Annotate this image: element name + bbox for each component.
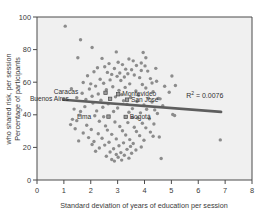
y-tick-label: 100 bbox=[19, 13, 31, 22]
scatter-point bbox=[127, 156, 130, 159]
x-tick-label: 7 bbox=[223, 186, 227, 195]
city-marker bbox=[116, 93, 119, 96]
scatter-point bbox=[121, 129, 124, 132]
city-label: Bogotá bbox=[130, 113, 151, 121]
scatter-point bbox=[133, 125, 136, 128]
x-tick-label: 2 bbox=[89, 186, 93, 195]
scatter-point bbox=[94, 150, 97, 153]
scatter-point bbox=[90, 128, 93, 131]
city-marker bbox=[124, 115, 127, 118]
scatter-point bbox=[82, 81, 85, 84]
scatter-chart-figure: 020406080100 012345678 CaracasBuenos Air… bbox=[0, 0, 266, 215]
scatter-point bbox=[140, 61, 143, 64]
y-axis-title-line-1: who shared risk, per session bbox=[4, 53, 13, 145]
scatter-point bbox=[138, 134, 141, 137]
scatter-point bbox=[100, 137, 103, 140]
scatter-point bbox=[144, 126, 147, 129]
scatter-point bbox=[96, 66, 99, 69]
city-marker bbox=[108, 97, 111, 100]
scatter-point bbox=[144, 56, 147, 59]
scatter-point bbox=[141, 83, 144, 86]
scatter-point bbox=[132, 59, 135, 62]
scatter-point bbox=[123, 75, 126, 78]
scatter-point bbox=[108, 150, 111, 153]
scatter-point bbox=[104, 124, 107, 127]
scatter-point bbox=[135, 130, 138, 133]
scatter-point bbox=[112, 110, 115, 113]
x-tick-label: 6 bbox=[196, 186, 200, 195]
x-tick-label: 4 bbox=[142, 186, 146, 195]
scatter-point bbox=[90, 46, 93, 49]
scatter-point bbox=[92, 140, 95, 143]
scatter-point bbox=[122, 141, 125, 144]
scatter-point bbox=[151, 135, 154, 138]
scatter-point bbox=[168, 91, 171, 94]
scatter-point bbox=[131, 107, 134, 110]
scatter-point bbox=[130, 152, 133, 155]
scatter-point bbox=[111, 85, 114, 88]
scatter-point bbox=[107, 62, 110, 65]
scatter-point bbox=[115, 50, 118, 53]
y-tick-label: 80 bbox=[23, 45, 31, 54]
scatter-point bbox=[159, 157, 162, 160]
scatter-point bbox=[112, 147, 115, 150]
scatter-point bbox=[121, 63, 124, 66]
scatter-point bbox=[105, 155, 108, 158]
scatter-point bbox=[98, 78, 101, 81]
scatter-point bbox=[149, 130, 152, 133]
scatter-point bbox=[82, 131, 85, 134]
scatter-point bbox=[106, 71, 109, 74]
scatter-point bbox=[132, 142, 135, 145]
scatter-point bbox=[80, 92, 83, 95]
scatter-point bbox=[219, 138, 222, 141]
scatter-point bbox=[118, 125, 121, 128]
scatter-point bbox=[140, 69, 143, 72]
scatter-point bbox=[98, 146, 101, 149]
x-tick-label: 3 bbox=[116, 186, 120, 195]
y-tick-label: 0 bbox=[27, 176, 31, 185]
scatter-point bbox=[103, 143, 106, 146]
scatter-point bbox=[173, 114, 176, 117]
scatter-point bbox=[129, 145, 132, 148]
scatter-point bbox=[124, 133, 127, 136]
city-marker bbox=[125, 98, 128, 101]
scatter-point bbox=[156, 112, 159, 115]
scatter-plot-svg: 020406080100 012345678 CaracasBuenos Air… bbox=[0, 0, 266, 215]
scatter-point bbox=[115, 75, 118, 78]
scatter-point bbox=[124, 67, 127, 70]
scatter-point bbox=[119, 79, 122, 82]
scatter-point bbox=[107, 140, 110, 143]
scatter-point bbox=[138, 76, 141, 79]
scatter-point bbox=[106, 128, 109, 131]
scatter-point bbox=[153, 108, 156, 111]
scatter-point bbox=[133, 73, 136, 76]
y-tick-label: 20 bbox=[23, 143, 31, 152]
scatter-point bbox=[174, 84, 177, 87]
y-tick-label: 40 bbox=[23, 110, 31, 119]
scatter-point bbox=[95, 109, 98, 112]
scatter-point bbox=[73, 127, 76, 130]
scatter-point bbox=[86, 74, 89, 77]
scatter-point bbox=[115, 137, 118, 140]
scatter-point bbox=[120, 158, 123, 161]
scatter-point bbox=[142, 139, 145, 142]
scatter-point bbox=[87, 136, 90, 139]
scatter-point bbox=[69, 123, 72, 126]
scatter-point bbox=[108, 78, 111, 81]
scatter-point bbox=[145, 108, 148, 111]
scatter-point bbox=[135, 64, 138, 67]
scatter-point bbox=[117, 144, 120, 147]
scatter-point bbox=[93, 114, 96, 117]
scatter-point bbox=[141, 51, 144, 54]
x-axis-ticks: 012345678 bbox=[35, 180, 254, 195]
scatter-point bbox=[77, 139, 80, 142]
scatter-point bbox=[110, 73, 113, 76]
labeled-city: San José bbox=[125, 96, 159, 103]
scatter-point bbox=[72, 107, 75, 110]
scatter-point bbox=[101, 106, 104, 109]
scatter-point bbox=[97, 92, 100, 95]
scatter-point bbox=[113, 159, 116, 162]
scatter-point bbox=[89, 82, 92, 85]
y-axis-title-line-2: Percentage of participants bbox=[13, 57, 22, 141]
x-tick-label: 5 bbox=[169, 186, 173, 195]
